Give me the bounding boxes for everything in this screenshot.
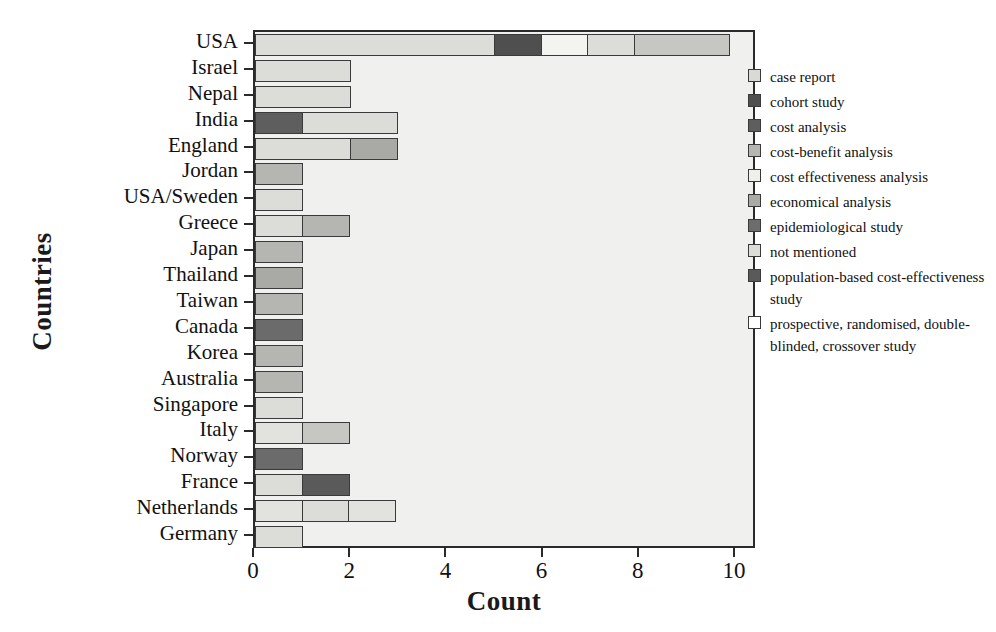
bar-series-container [255,32,753,546]
bar-segment [302,422,350,444]
bar-row [255,86,351,108]
x-axis-tick-label: 6 [512,558,572,584]
y-axis-tick-mark [244,94,253,96]
y-axis-tick-label: Singapore [8,392,238,417]
y-axis-tick-mark [244,353,253,355]
y-axis-tick-mark [244,430,253,432]
x-axis-tick-label: 2 [319,558,379,584]
y-axis-tick-mark [244,301,253,303]
legend-swatch-icon [748,69,761,82]
y-axis-tick-mark [244,508,253,510]
y-axis-tick-label: Norway [8,443,238,468]
bar-segment [255,34,496,56]
x-axis-tick-label: 10 [704,558,764,584]
bar-segment [302,500,350,522]
bar-segment [255,215,303,237]
y-axis-tick-label: Israel [8,55,238,80]
bar-segment [255,293,303,315]
y-axis-tick-mark [244,456,253,458]
x-axis-tick-mark [444,548,446,557]
bar-segment [255,163,303,185]
bar-segment [541,34,589,56]
legend-label: economical analysis [770,191,891,213]
legend-item: cost analysis [748,116,992,138]
bar-segment [255,422,303,444]
bar-segment [255,267,303,289]
y-axis-tick-label: USA [8,29,238,54]
legend-label: population-based cost-effectiveness stud… [770,266,992,310]
y-axis-tick-mark [244,534,253,536]
bar-segment [348,500,396,522]
bar-row [255,345,303,367]
bar-segment [255,371,303,393]
bar-segment [634,34,730,56]
y-axis-tick-label: England [8,133,238,158]
x-axis-tick-mark [541,548,543,557]
legend-item: economical analysis [748,191,992,213]
legend-swatch-icon [748,169,761,182]
x-axis-tick-label: 4 [415,558,475,584]
bar-row [255,189,303,211]
bar-row [255,163,303,185]
legend: case reportcohort studycost analysiscost… [748,66,992,360]
y-axis-tick-label: Jordan [8,158,238,183]
y-axis-tick-mark [244,275,253,277]
legend-swatch-icon [748,269,761,282]
bar-segment [255,86,351,108]
bar-row [255,422,350,444]
bar-row [255,371,303,393]
x-axis-tick-mark [252,548,254,557]
bar-segment [255,319,303,341]
legend-swatch-icon [748,94,761,107]
y-axis-tick-label: India [8,107,238,132]
bar-segment [255,60,351,82]
y-axis-tick-label: Italy [8,417,238,442]
legend-label: not mentioned [770,241,856,263]
y-axis-tick-label: Nepal [8,81,238,106]
y-axis-tick-label: Australia [8,366,238,391]
legend-item: cost effectiveness analysis [748,166,992,188]
y-axis-tick-label: Japan [8,236,238,261]
y-axis-tick-mark [244,327,253,329]
bar-row [255,60,351,82]
y-axis-tick-mark [244,223,253,225]
bar-row [255,319,303,341]
x-axis-tick-mark [637,548,639,557]
x-axis-tick-mark [733,548,735,557]
bar-row [255,215,350,237]
bar-segment [350,138,398,160]
legend-label: prospective, randomised, double-blinded,… [770,313,992,357]
bar-segment [255,112,303,134]
bar-row [255,526,303,548]
y-axis-tick-mark [244,171,253,173]
legend-label: cohort study [770,91,845,113]
y-axis-tick-mark [244,405,253,407]
bar-segment [255,448,303,470]
bar-row [255,34,730,56]
bar-row [255,500,396,522]
y-axis-tick-label: Netherlands [8,495,238,520]
y-axis-tick-label: Taiwan [8,288,238,313]
legend-label: cost-benefit analysis [770,141,893,163]
bar-segment [255,397,303,419]
legend-label: cost analysis [770,116,846,138]
x-axis-tick-mark [348,548,350,557]
legend-item: not mentioned [748,241,992,263]
legend-item: cost-benefit analysis [748,141,992,163]
bar-row [255,474,350,496]
bar-segment [302,112,398,134]
legend-swatch-icon [748,119,761,132]
bar-row [255,293,303,315]
y-axis-tick-mark [244,482,253,484]
x-axis-title: Count [253,586,755,617]
y-axis-tick-mark [244,379,253,381]
bar-segment [255,526,303,548]
legend-swatch-icon [748,219,761,232]
bar-segment [494,34,542,56]
bar-row [255,138,398,160]
y-axis-tick-label: Korea [8,340,238,365]
legend-swatch-icon [748,144,761,157]
bar-segment [255,189,303,211]
y-axis-tick-label: Thailand [8,262,238,287]
y-axis-tick-mark [244,42,253,44]
